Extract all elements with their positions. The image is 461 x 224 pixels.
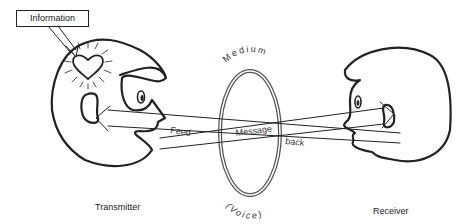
message-label: Message — [235, 124, 272, 138]
transmitter-label: Transmitter — [95, 202, 140, 212]
information-box: Information — [16, 10, 89, 27]
transmitter-head — [52, 40, 166, 166]
communication-diagram: Medium (Voice) Feed Message back Informa… — [0, 0, 461, 224]
medium-label: Medium — [221, 44, 270, 64]
callout-pointer — [48, 26, 78, 57]
diagram-canvas: Medium (Voice) Feed Message back — [0, 0, 461, 224]
heart-icon — [64, 42, 112, 89]
receiver-label: Receiver — [373, 206, 409, 216]
voice-label: (Voice) — [224, 201, 264, 221]
back-label: back — [285, 136, 305, 148]
